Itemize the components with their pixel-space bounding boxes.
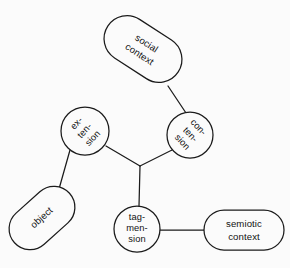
tag-mension-label-line2: men-	[126, 223, 148, 233]
node-tag-mension[interactable]: tag- men- sion	[114, 206, 160, 252]
edge-junction-to-tag-mension	[139, 166, 140, 206]
node-semiotic-context[interactable]: semiotic context	[204, 210, 284, 250]
diagram-canvas: social context con- ten- sion ex- ten- s…	[0, 0, 290, 268]
semiotic-extension-diagram: social context con- ten- sion ex- ten- s…	[0, 0, 290, 268]
tag-mension-label-line3: sion	[128, 234, 145, 244]
node-object[interactable]: object	[0, 178, 83, 259]
semiotic-context-label-line2: context	[228, 231, 260, 242]
edge-ex-tension-to-object	[59, 150, 70, 189]
semiotic-context-label-line1: semiotic	[226, 218, 262, 229]
edge-ex-tension-to-junction	[106, 146, 140, 166]
tag-mension-label-line1: tag-	[129, 212, 145, 222]
edge-social-context-to-con-tension	[168, 86, 186, 113]
edge-con-tension-to-junction	[140, 150, 172, 166]
node-social-context[interactable]: social context	[95, 7, 191, 91]
node-con-tension[interactable]: con- ten- sion	[167, 112, 213, 158]
node-ex-tension[interactable]: ex- ten- sion	[61, 107, 109, 155]
